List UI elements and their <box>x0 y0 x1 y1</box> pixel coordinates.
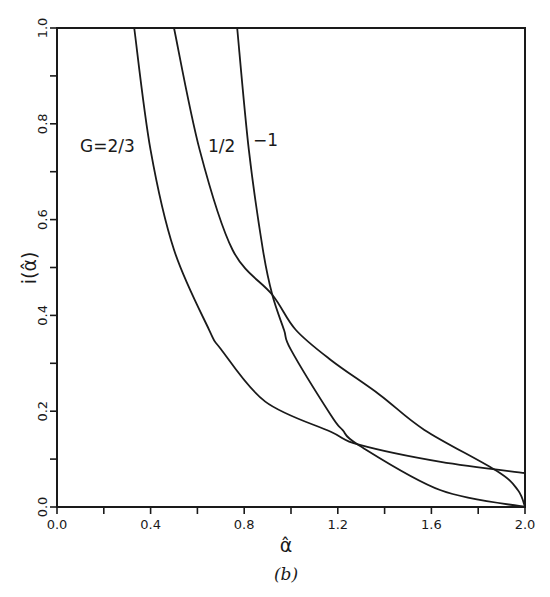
panel-label: (b) <box>274 564 298 584</box>
plot-border <box>57 28 525 507</box>
x-axis-label: α̂ <box>280 534 293 556</box>
x-axis-ticks: 0.00.40.81.21.62.0 <box>47 507 536 532</box>
y-tick-label: 0.2 <box>35 401 50 422</box>
y-axis-label: i(α̂) <box>18 252 40 285</box>
plot-frame <box>57 28 525 507</box>
curve-1-2 <box>174 28 525 507</box>
curves <box>134 28 525 507</box>
curve-minus-1 <box>237 28 525 507</box>
y-tick-label: 0.8 <box>35 113 50 134</box>
curve-label-minus-1: −1 <box>253 130 278 150</box>
chart: 0.00.40.81.21.62.0 0.00.20.40.60.81.0 G=… <box>0 0 550 597</box>
x-tick-label: 2.0 <box>515 517 536 532</box>
x-tick-label: 0.8 <box>234 517 255 532</box>
y-tick-label: 0.6 <box>35 209 50 230</box>
curve-label-g-2-3: G=2/3 <box>80 136 135 156</box>
curve-label-1-2: 1/2 <box>208 136 235 156</box>
x-tick-label: 1.6 <box>421 517 442 532</box>
curve-g-2-3 <box>134 28 525 473</box>
y-tick-label: 1.0 <box>35 18 50 39</box>
x-tick-label: 0.4 <box>140 517 161 532</box>
x-tick-label: 1.2 <box>327 517 348 532</box>
x-tick-label: 0.0 <box>47 517 68 532</box>
y-tick-label: 0.0 <box>35 497 50 518</box>
y-tick-label: 0.4 <box>35 305 50 326</box>
